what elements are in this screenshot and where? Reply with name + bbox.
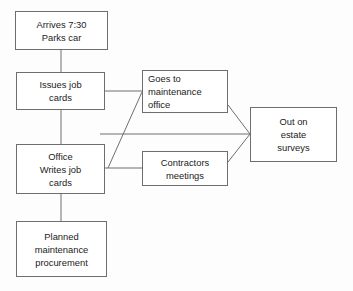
arrives-parks-car-line-0: Arrives 7:30 xyxy=(16,18,107,31)
connector-office-to-goes-diagonal xyxy=(108,92,142,168)
out-on-estate-surveys-line-1: estate xyxy=(251,128,336,141)
connector-contractors-to-surveys-diagonal xyxy=(228,134,250,162)
flowchart-canvas: Arrives 7:30Parks carIssues jobcardsGoes… xyxy=(0,0,353,291)
issues-job-cards-line-1: cards xyxy=(17,91,104,104)
contractors-meetings-line-1: meetings xyxy=(143,169,227,182)
contractors-meetings-line-0: Contractors xyxy=(143,156,227,169)
office-writes-job-cards-line-0: Office xyxy=(17,150,104,163)
out-on-estate-surveys-line-2: surveys xyxy=(251,141,336,154)
contractors-meetings[interactable]: Contractorsmeetings xyxy=(142,151,228,186)
out-on-estate-surveys[interactable]: Out onestatesurveys xyxy=(250,107,337,162)
office-writes-job-cards-line-2: cards xyxy=(17,176,104,189)
planned-maintenance-procurement-line-1: maintenance xyxy=(17,243,106,256)
goes-to-maintenance-office-line-0: Goes to xyxy=(143,72,227,85)
planned-maintenance-procurement[interactable]: Plannedmaintenanceprocurement xyxy=(16,221,107,277)
out-on-estate-surveys-line-0: Out on xyxy=(251,115,336,128)
issues-job-cards[interactable]: Issues jobcards xyxy=(16,72,105,110)
goes-to-maintenance-office-line-1: maintenance xyxy=(143,85,227,98)
planned-maintenance-procurement-line-2: procurement xyxy=(17,256,106,269)
planned-maintenance-procurement-line-0: Planned xyxy=(17,230,106,243)
connector-goes-to-surveys-diagonal xyxy=(228,105,250,134)
arrives-parks-car-line-1: Parks car xyxy=(16,31,107,44)
office-writes-job-cards[interactable]: OfficeWrites jobcards xyxy=(16,144,105,194)
issues-job-cards-line-0: Issues job xyxy=(17,78,104,91)
goes-to-maintenance-office-line-2: office xyxy=(143,98,227,111)
goes-to-maintenance-office[interactable]: Goes tomaintenanceoffice xyxy=(142,70,228,113)
arrives-parks-car[interactable]: Arrives 7:30Parks car xyxy=(15,11,108,50)
office-writes-job-cards-line-1: Writes job xyxy=(17,163,104,176)
